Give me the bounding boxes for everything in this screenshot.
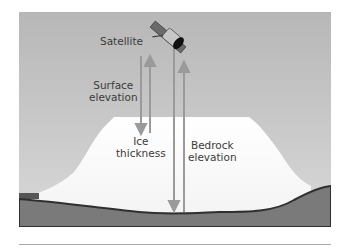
bedrock-elevation-line2: elevation — [188, 151, 237, 163]
satellite-label-text: Satellite — [100, 35, 143, 47]
satellite-label: Satellite — [100, 35, 143, 47]
ice-thickness-line2: thickness — [116, 147, 166, 159]
surface-elevation-line2: elevation — [89, 91, 138, 103]
surface-elevation-label: Surface elevation — [89, 79, 138, 103]
bedrock-elevation-line1: Bedrock — [188, 139, 237, 151]
surface-elevation-line1: Surface — [89, 79, 138, 91]
bedrock-elevation-label: Bedrock elevation — [188, 139, 237, 163]
ice-thickness-label: Ice thickness — [116, 135, 166, 159]
diagram-canvas — [19, 12, 331, 227]
ice-thickness-line1: Ice — [116, 135, 166, 147]
ice-sheet-diagram: Satellite Surface elevation Ice thicknes… — [19, 12, 331, 227]
ice-edge-patch — [19, 193, 39, 199]
separator-line — [19, 244, 331, 245]
